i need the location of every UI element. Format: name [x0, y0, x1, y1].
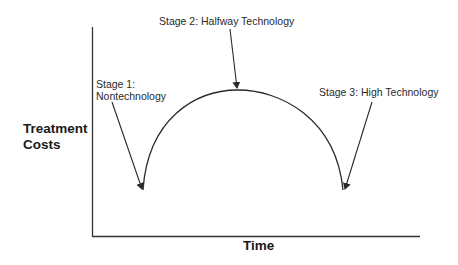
cost-curve	[143, 90, 343, 190]
stage-2-label: Stage 2: Halfway Technology	[159, 15, 294, 27]
y-axis-title-line2: Costs	[23, 137, 88, 153]
stage-1-label-line2: Nontechnology	[96, 90, 166, 102]
stage-2-arrow	[230, 29, 237, 88]
y-axis-title-line1: Treatment	[23, 121, 88, 137]
stage-1-label: Stage 1: Nontechnology	[96, 78, 166, 102]
stage-1-label-line1: Stage 1:	[96, 78, 166, 90]
stage-3-arrow	[345, 102, 372, 189]
x-axis-title: Time	[243, 238, 274, 254]
stage-3-label: Stage 3: High Technology	[319, 86, 438, 98]
y-axis-title: Treatment Costs	[23, 121, 88, 153]
stage-1-arrow	[112, 102, 142, 189]
